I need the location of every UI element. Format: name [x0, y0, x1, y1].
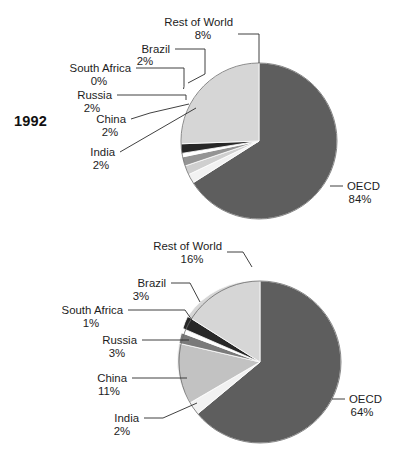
pie-slice-rest-of-world-1992[interactable]	[181, 63, 259, 144]
label-rest-of-world-pct-1992: 8%	[195, 29, 211, 41]
leader-south-africa-1992	[136, 68, 184, 89]
label-india-pct-1992: 2%	[93, 159, 109, 171]
label-oecd-2012: OECD	[349, 393, 382, 405]
label-russia-pct-2012: 3%	[109, 347, 125, 359]
label-oecd-1992: OECD	[347, 180, 380, 192]
label-oecd-pct-2012: 64%	[351, 406, 374, 418]
label-south-africa-2012: South Africa	[62, 304, 124, 316]
label-india-1992: India	[90, 146, 115, 158]
label-russia-2012: Russia	[102, 334, 137, 346]
leader-india-2012	[144, 403, 197, 418]
pie-slices-2012	[177, 281, 341, 443]
label-china-1992: China	[96, 113, 126, 125]
label-south-africa-pct-2012: 1%	[83, 317, 99, 329]
pie-svg-1992: Rest of World 8% Brazil 2% South Africa …	[0, 0, 401, 230]
label-china-pct-2012: 11%	[98, 385, 120, 397]
leader-rest-of-world-2012	[227, 252, 252, 267]
year-label-1992: 1992	[14, 113, 47, 129]
leader-russia-1992	[117, 95, 186, 100]
leader-brazil-1992	[175, 49, 205, 83]
label-rest-of-world-1992: Rest of World	[164, 16, 233, 28]
label-india-pct-2012: 2%	[114, 425, 130, 437]
label-oecd-pct-1992: 84%	[349, 193, 372, 205]
label-china-pct-1992: 2%	[102, 126, 118, 138]
label-brazil-pct-2012: 3%	[133, 290, 149, 302]
pie-chart-figure: 1992	[0, 0, 401, 459]
label-brazil-2012: Brazil	[138, 277, 166, 289]
label-rest-of-world-2012: Rest of World	[153, 240, 222, 252]
chart-2012: 2012	[0, 230, 401, 459]
label-rest-of-world-pct-2012: 16%	[181, 253, 204, 265]
leader-south-africa-2012	[128, 310, 194, 323]
pie-svg-2012: Rest of World 16% Brazil 3% South Africa…	[0, 230, 401, 459]
leader-rest-of-world-1992	[238, 34, 259, 63]
label-india-2012: India	[114, 412, 139, 424]
label-russia-1992: Russia	[77, 89, 112, 101]
label-china-2012: China	[97, 372, 127, 384]
leader-brazil-2012	[171, 283, 200, 302]
label-south-africa-pct-1992: 0%	[91, 75, 107, 87]
pie-slices-1992	[181, 63, 337, 219]
label-brazil-1992: Brazil	[142, 43, 170, 55]
label-brazil-pct-1992: 2%	[137, 55, 153, 67]
label-south-africa-1992: South Africa	[70, 62, 132, 74]
chart-1992: 1992	[0, 0, 401, 230]
